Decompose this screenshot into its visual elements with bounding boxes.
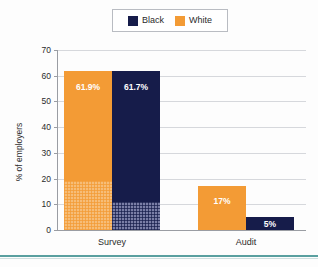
bar-audit-white[interactable]: 17% — [198, 186, 246, 230]
tickmark-70 — [54, 50, 58, 51]
tickmark-10 — [54, 204, 58, 205]
tickmark-0 — [54, 230, 58, 231]
bar-survey-white-hatch-segment — [64, 181, 112, 230]
footer-rule — [0, 255, 318, 257]
legend-swatch-white-icon — [175, 16, 185, 26]
tickmark-30 — [54, 153, 58, 154]
ytick-label-0: 0 — [46, 226, 51, 235]
bar-survey-black-hatch-segment — [112, 202, 160, 230]
chart-figure: Black White % of employers — [0, 0, 318, 267]
ytick-label-20: 20 — [42, 174, 51, 183]
y-axis-spine — [57, 50, 58, 230]
ytick-label-70: 70 — [42, 46, 51, 55]
bar-survey-white-value: 61.9% — [64, 83, 112, 92]
bar-survey-black[interactable]: 61.7% — [112, 71, 160, 230]
legend-item-black[interactable]: Black — [128, 16, 164, 26]
legend-label-white: White — [189, 16, 212, 25]
bar-audit-white-fill — [198, 186, 246, 230]
chart-legend: Black White — [112, 9, 228, 32]
bar-survey-black-value: 61.7% — [112, 83, 160, 92]
xtick-label-survey: Survey — [64, 238, 160, 247]
legend-label-black: Black — [142, 16, 164, 25]
gridline-0 — [58, 230, 306, 231]
tickmark-50 — [54, 101, 58, 102]
ytick-label-60: 60 — [42, 71, 51, 80]
ytick-label-40: 40 — [42, 123, 51, 132]
bar-audit-black-value: 5% — [246, 220, 294, 229]
y-axis-title: % of employers — [12, 62, 26, 242]
footer-rule-shadow — [0, 258, 318, 259]
legend-item-white[interactable]: White — [175, 16, 212, 26]
plot-area: 70 60 50 40 30 20 10 0 61.9% 61.7% Surve… — [58, 50, 306, 230]
tickmark-20 — [54, 179, 58, 180]
bar-survey-white[interactable]: 61.9% — [64, 71, 112, 230]
xtick-label-audit: Audit — [198, 238, 294, 247]
ytick-label-50: 50 — [42, 97, 51, 106]
tickmark-60 — [54, 76, 58, 77]
legend-swatch-black-icon — [128, 16, 138, 26]
ytick-label-10: 10 — [42, 200, 51, 209]
ytick-label-30: 30 — [42, 149, 51, 158]
bar-audit-black[interactable]: 5% — [246, 217, 294, 230]
bar-audit-white-value: 17% — [198, 197, 246, 206]
tickmark-40 — [54, 127, 58, 128]
gridline-70 — [58, 50, 306, 51]
